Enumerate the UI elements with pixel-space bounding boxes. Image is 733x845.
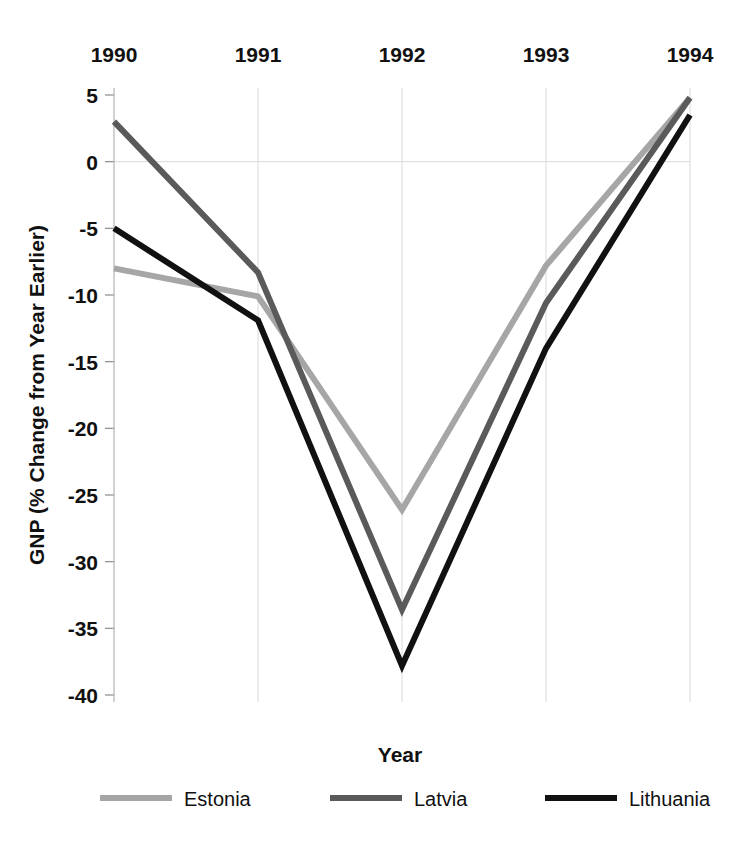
- legend-label-latvia: Latvia: [414, 788, 468, 810]
- x-tick-label-1990: 1990: [91, 43, 138, 66]
- y-tick-label--5: -5: [79, 217, 98, 240]
- y-tick-label--40: -40: [68, 684, 98, 707]
- chart-background: [0, 0, 733, 845]
- legend-label-estonia: Estonia: [184, 788, 252, 810]
- y-tick-label--25: -25: [68, 484, 99, 507]
- y-tick-label--15: -15: [68, 351, 99, 374]
- chart-figure: 19901991199219931994 50-5-10-15-20-25-30…: [0, 0, 733, 845]
- y-axis-title: GNP (% Change from Year Earlier): [25, 225, 48, 565]
- y-tick-label--20: -20: [68, 417, 98, 440]
- y-tick-label-0: 0: [86, 151, 98, 174]
- x-tick-label-1993: 1993: [523, 43, 570, 66]
- x-tick-label-1991: 1991: [235, 43, 282, 66]
- y-tick-label--35: -35: [68, 617, 99, 640]
- x-tick-label-1994: 1994: [667, 43, 714, 66]
- gnp-line-chart: 19901991199219931994 50-5-10-15-20-25-30…: [0, 0, 733, 845]
- legend-label-lithuania: Lithuania: [629, 788, 711, 810]
- y-tick-label--10: -10: [68, 284, 98, 307]
- x-axis-title: Year: [378, 743, 422, 766]
- x-tick-label-1992: 1992: [379, 43, 426, 66]
- y-tick-label-5: 5: [86, 84, 98, 107]
- y-tick-label--30: -30: [68, 551, 98, 574]
